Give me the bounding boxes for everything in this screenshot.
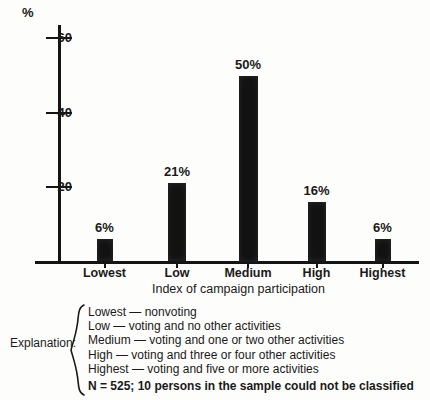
explanation-label: Explanation: [10, 336, 76, 350]
explanation-line: Low — voting and no other activities [88, 319, 428, 333]
bar-low [168, 183, 186, 261]
bar-highest [375, 239, 391, 261]
y-axis-unit-label: % [22, 5, 34, 20]
explanation-block: Explanation: Lowest — nonvotingLow — vot… [0, 300, 430, 400]
y-tick-label: 20 [48, 180, 72, 193]
bar-value-label-medium: 50% [218, 58, 278, 71]
explanation-sample-note: N = 525; 10 persons in the sample could … [88, 376, 428, 393]
bar-value-label-highest: 6% [353, 221, 413, 234]
bar-high [308, 202, 326, 262]
bar-medium [239, 76, 258, 262]
x-axis-line [35, 261, 419, 264]
y-tick-label: 60 [48, 31, 72, 44]
bar-value-label-lowest: 6% [75, 221, 135, 234]
curly-brace-icon [70, 304, 88, 396]
y-tick-label: 40 [48, 106, 72, 119]
x-category-label-lowest: Lowest [65, 267, 145, 281]
bar-chart-figure: . . . . . % 204060 6%Lowest21%Low50%Medi… [0, 0, 430, 400]
explanation-line: High — voting and three or four other ac… [88, 348, 428, 362]
bar-lowest [97, 239, 113, 261]
bar-value-label-high: 16% [287, 184, 347, 197]
explanation-line: Lowest — nonvoting [88, 305, 428, 319]
x-category-label-low: Low [137, 267, 217, 281]
bar-value-label-low: 21% [147, 165, 207, 178]
y-axis-line [58, 25, 61, 264]
x-axis-title: Index of campaign participation [58, 283, 419, 297]
explanation-line: Medium — voting and one or two other act… [88, 333, 428, 347]
cut-off-title-remnant: . . . . . [105, 0, 305, 6]
explanation-lines: Lowest — nonvotingLow — voting and no ot… [88, 305, 428, 393]
x-category-label-highest: Highest [343, 267, 423, 281]
explanation-line: Highest — voting and five or more activi… [88, 362, 428, 376]
